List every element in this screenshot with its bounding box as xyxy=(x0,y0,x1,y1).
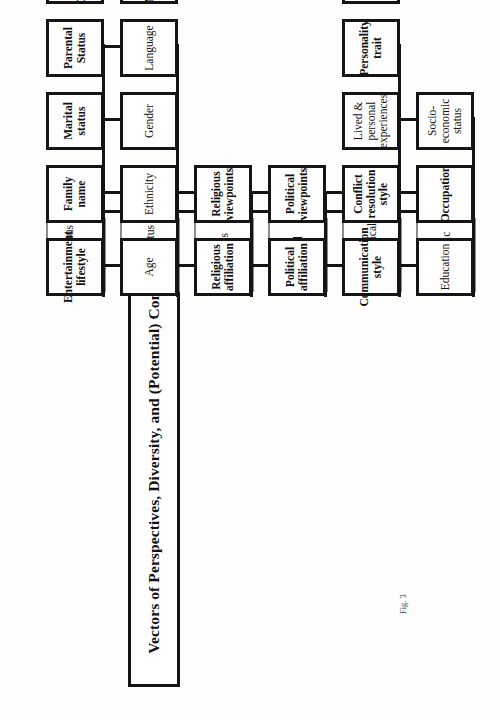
item-label-occupation: Occupation xyxy=(439,166,452,223)
item-box-occupation[interactable]: Occupation xyxy=(416,165,474,223)
item-label-nationality: Nationality xyxy=(143,0,156,2)
item-label-sexual-orientation: Sexual Orientation xyxy=(62,0,88,4)
link-religiousview-politicalview xyxy=(252,191,268,194)
item-label-religious-viewpoints: Religious viewpoints xyxy=(210,168,236,220)
item-label-marital-status: Marital status xyxy=(62,97,88,145)
item-box-personality-trait[interactable]: Personality trait xyxy=(342,19,400,77)
link-entertainment-age xyxy=(104,264,120,267)
item-label-parental-status: Parental Status xyxy=(62,24,88,72)
item-box-language[interactable]: Language xyxy=(120,19,178,77)
item-box-gender[interactable]: Gender xyxy=(120,92,178,150)
item-label-conflict-resolution-style: Conflict resolution style xyxy=(352,170,391,219)
item-label-gender: Gender xyxy=(143,104,156,138)
root-title-text: Vectors of Perspectives, Diversity, and … xyxy=(145,265,162,654)
item-box-ethnicity[interactable]: Ethnicity xyxy=(120,165,178,223)
link-politicalaff-communication xyxy=(326,264,342,267)
item-label-age: Age xyxy=(143,257,156,276)
item-box-entertainment-lifestyle[interactable]: Entertainment lifestyle xyxy=(46,238,104,296)
item-box-lived-personal-experiences[interactable]: Lived & personal experiences xyxy=(342,92,400,150)
item-label-lived-personal-experiences: Lived & personal experiences xyxy=(352,94,391,148)
item-box-religious-affiliation[interactable]: Religious affiliation xyxy=(194,238,252,296)
link-lived-socioeconomic xyxy=(400,118,416,121)
item-box-socio-economic-status[interactable]: Socio-economic status xyxy=(416,92,474,150)
link-communication-education xyxy=(400,264,416,267)
item-label-entertainment-lifestyle: Entertainment lifestyle xyxy=(62,231,88,303)
item-label-political-viewpoints: Political viewpoints xyxy=(284,168,310,220)
item-box-family-name[interactable]: Family name xyxy=(46,165,104,223)
item-box-physical-mental-health[interactable]: Physical & mental mealth xyxy=(342,0,400,4)
item-box-parental-status[interactable]: Parental Status xyxy=(46,19,104,77)
link-ethnicity-religiousview xyxy=(178,191,194,194)
item-label-language: Language xyxy=(143,25,156,70)
item-box-age[interactable]: Age xyxy=(120,238,178,296)
link-age-religiousaff xyxy=(178,264,194,267)
item-box-political-affiliation[interactable]: Political affiliation xyxy=(268,238,326,296)
item-label-religious-affiliation: Religious affiliation xyxy=(210,243,236,291)
link-politicalview-conflict xyxy=(326,191,342,194)
item-box-communication-style[interactable]: Communication style xyxy=(342,238,400,296)
root-title-box: Vectors of Perspectives, Diversity, and … xyxy=(128,232,180,687)
item-box-political-viewpoints[interactable]: Political viewpoints xyxy=(268,165,326,223)
link-familyname-ethnicity xyxy=(104,191,120,194)
item-label-personality-trait: Personality trait xyxy=(358,20,384,76)
item-label-family-name: Family name xyxy=(62,170,88,218)
item-box-nationality[interactable]: Nationality xyxy=(120,0,178,4)
figure-caption: Fig. 3 xyxy=(398,594,408,614)
item-box-education[interactable]: Education xyxy=(416,238,474,296)
link-conflict-occupation xyxy=(400,191,416,194)
item-box-conflict-resolution-style[interactable]: Conflict resolution style xyxy=(342,165,400,223)
item-box-religious-viewpoints[interactable]: Religious viewpoints xyxy=(194,165,252,223)
item-label-ethnicity: Ethnicity xyxy=(143,173,156,215)
item-label-communication-style: Communication style xyxy=(358,227,384,306)
item-label-political-affiliation: Political affiliation xyxy=(284,243,310,291)
link-religiousaff-politicalaff xyxy=(252,264,268,267)
item-label-education: Education xyxy=(439,244,452,291)
item-label-socio-economic-status: Socio-economic status xyxy=(426,97,465,145)
figure-canvas: Vectors of Perspectives, Diversity, and … xyxy=(10,15,490,705)
link-parental-language xyxy=(104,45,120,48)
item-box-marital-status[interactable]: Marital status xyxy=(46,92,104,150)
link-marital-gender xyxy=(104,118,120,121)
item-box-sexual-orientation[interactable]: Sexual Orientation xyxy=(46,0,104,4)
